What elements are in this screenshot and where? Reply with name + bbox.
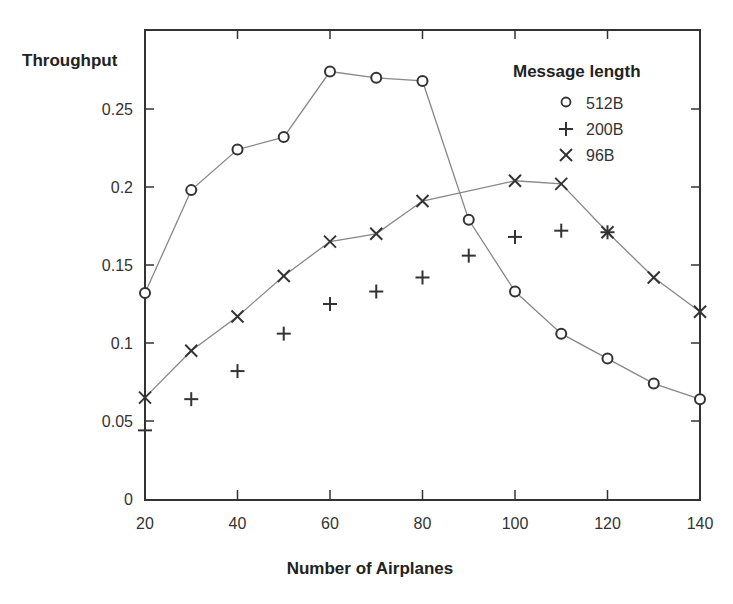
y-tick-label: 0.15	[102, 257, 133, 274]
x-tick-label: 100	[502, 515, 529, 532]
y-tick-label: 0.2	[111, 179, 133, 196]
y-tick-label: 0.25	[102, 101, 133, 118]
y-tick-label: 0	[124, 491, 133, 508]
legend-label: 200B	[586, 121, 623, 138]
x-tick-label: 20	[136, 515, 154, 532]
x-tick-label: 40	[229, 515, 247, 532]
legend-entry-200B: 200B	[559, 121, 623, 138]
x-tick-label: 140	[687, 515, 714, 532]
y-tick-label: 0.1	[111, 335, 133, 352]
legend-title: Message length	[513, 62, 641, 81]
y-tick-label: 0.05	[102, 413, 133, 430]
legend-label: 512B	[586, 95, 623, 112]
x-axis-label: Number of Airplanes	[287, 559, 454, 578]
series-96B	[139, 175, 706, 404]
x-tick-label: 120	[594, 515, 621, 532]
legend: Message length 512B200B96B	[513, 62, 641, 164]
legend-entry-96B: 96B	[560, 147, 614, 164]
legend-label: 96B	[586, 147, 614, 164]
series-200B	[138, 224, 615, 438]
legend-entry-512B: 512B	[562, 95, 624, 112]
x-tick-label: 80	[414, 515, 432, 532]
series-512B	[140, 67, 705, 405]
y-axis-label: Throughput	[22, 51, 118, 70]
throughput-chart: 2040608010012014000.050.10.150.20.25 Thr…	[0, 0, 733, 604]
x-tick-label: 60	[321, 515, 339, 532]
